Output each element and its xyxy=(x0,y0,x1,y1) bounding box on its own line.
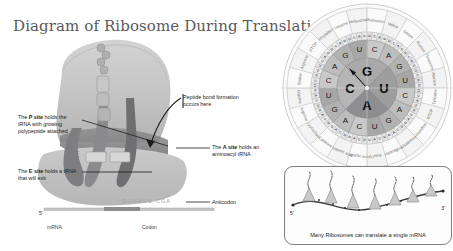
svg-text:C: C xyxy=(402,91,408,100)
svg-text:A: A xyxy=(343,116,349,125)
svg-text:U: U xyxy=(372,122,378,131)
mrna-label: mRNA xyxy=(47,224,62,230)
svg-text:A: A xyxy=(362,98,372,113)
svg-text:G: G xyxy=(342,51,348,60)
svg-text:A: A xyxy=(397,105,403,114)
polysome-caption: Many Ribosomes can translate a single mR… xyxy=(285,232,451,238)
figure-page: Diagram of Ribosome During Translation xyxy=(0,0,453,251)
codon-label: Codon xyxy=(142,224,157,230)
svg-text:C: C xyxy=(372,45,378,54)
callout-anticodon: Anticodon xyxy=(212,199,264,206)
polysome-mrna-strand xyxy=(293,191,443,210)
p-site-term: P site xyxy=(29,114,43,120)
polysome-five-prime-label: 5' xyxy=(290,210,294,216)
svg-text:A: A xyxy=(386,51,392,60)
ribosome-panel: E P A xyxy=(0,36,240,211)
svg-text:U: U xyxy=(326,91,332,100)
polysome-5prime-dot xyxy=(291,203,294,206)
svg-text:C: C xyxy=(357,122,363,131)
polysome-ribosomes xyxy=(303,185,437,209)
svg-text:C: C xyxy=(326,76,332,85)
e-site-term: E site xyxy=(29,168,43,174)
callout-p-site: The P site holds the tRNA with growing p… xyxy=(18,114,80,136)
svg-text:G: G xyxy=(331,105,337,114)
polysome-illustration xyxy=(285,167,451,227)
svg-text:A: A xyxy=(332,62,338,71)
codon-wheel-svg: PhenylalanineLeucineIsoleucineMethionine… xyxy=(281,2,453,174)
polysome-inset: 5' 3' Many Ribosomes can translate a sin… xyxy=(284,166,452,245)
svg-text:G: G xyxy=(386,116,392,125)
codon-wheel: PhenylalanineLeucineIsoleucineMethionine… xyxy=(281,2,453,174)
polysome-three-prime-label: 3' xyxy=(441,205,445,211)
polysome-3prime-dot xyxy=(441,189,444,192)
callout-e-site: The E site holds a tRNA that will exit xyxy=(18,168,82,182)
svg-text:U: U xyxy=(402,76,408,85)
callout-a-site: The A site holds an aminoacyl tRNA xyxy=(212,144,264,158)
mrna-five-prime-label: 5' xyxy=(39,210,43,216)
a-site-term: A site xyxy=(223,144,237,150)
svg-text:G: G xyxy=(396,62,402,71)
anticodon-sequence-text: GUGAGU CGA xyxy=(122,198,171,204)
callout-peptide-bond: Peptide bond formation occurs here xyxy=(183,94,255,108)
svg-text:U: U xyxy=(357,45,363,54)
